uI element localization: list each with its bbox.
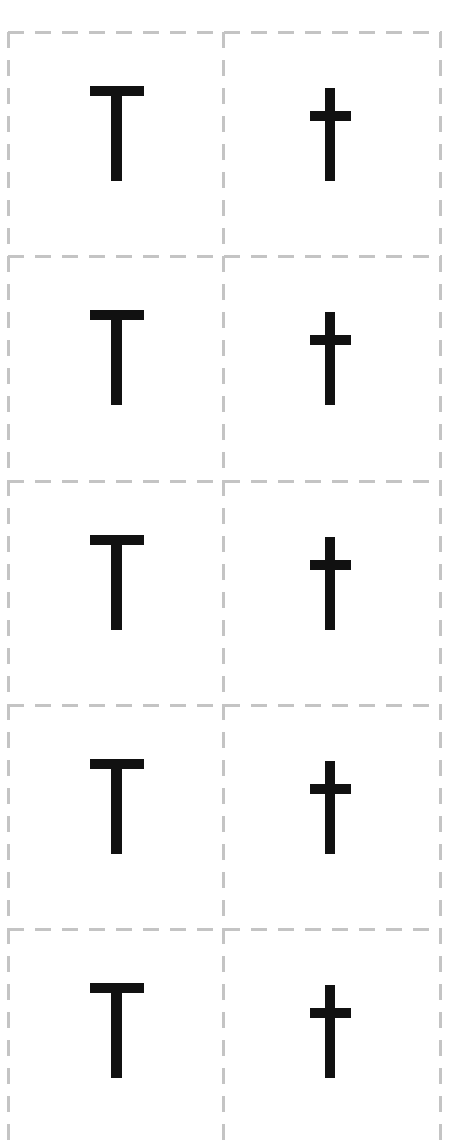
lowercase-t-glyph [310,537,352,631]
lowercase-t-glyph [310,985,352,1079]
uppercase-letter: T [8,256,9,257]
dashed-divider [439,32,442,1143]
lowercase-t-glyph [310,88,352,182]
uppercase-cell: T [8,481,223,705]
uppercase-t-glyph [90,310,144,406]
lowercase-letter: t [224,256,225,257]
lowercase-letter: t [224,32,225,33]
uppercase-t-glyph [90,759,144,855]
uppercase-cell: T [8,929,223,1143]
uppercase-t-glyph [90,983,144,1079]
lowercase-cell: t [224,256,439,480]
lowercase-cell: t [224,481,439,705]
uppercase-cell: T [8,32,223,256]
uppercase-letter: T [8,705,9,706]
uppercase-t-glyph [90,535,144,631]
lowercase-t-glyph [310,312,352,406]
lowercase-cell: t [224,929,439,1143]
uppercase-letter: T [8,32,9,33]
lowercase-letter: t [224,705,225,706]
lowercase-cell: t [224,705,439,929]
uppercase-letter: T [8,929,9,930]
uppercase-cell: T [8,705,223,929]
lowercase-letter: t [224,929,225,930]
uppercase-letter: T [8,481,9,482]
lowercase-letter: t [224,481,225,482]
lowercase-t-glyph [310,761,352,855]
uppercase-cell: T [8,256,223,480]
lowercase-cell: t [224,32,439,256]
uppercase-t-glyph [90,86,144,182]
